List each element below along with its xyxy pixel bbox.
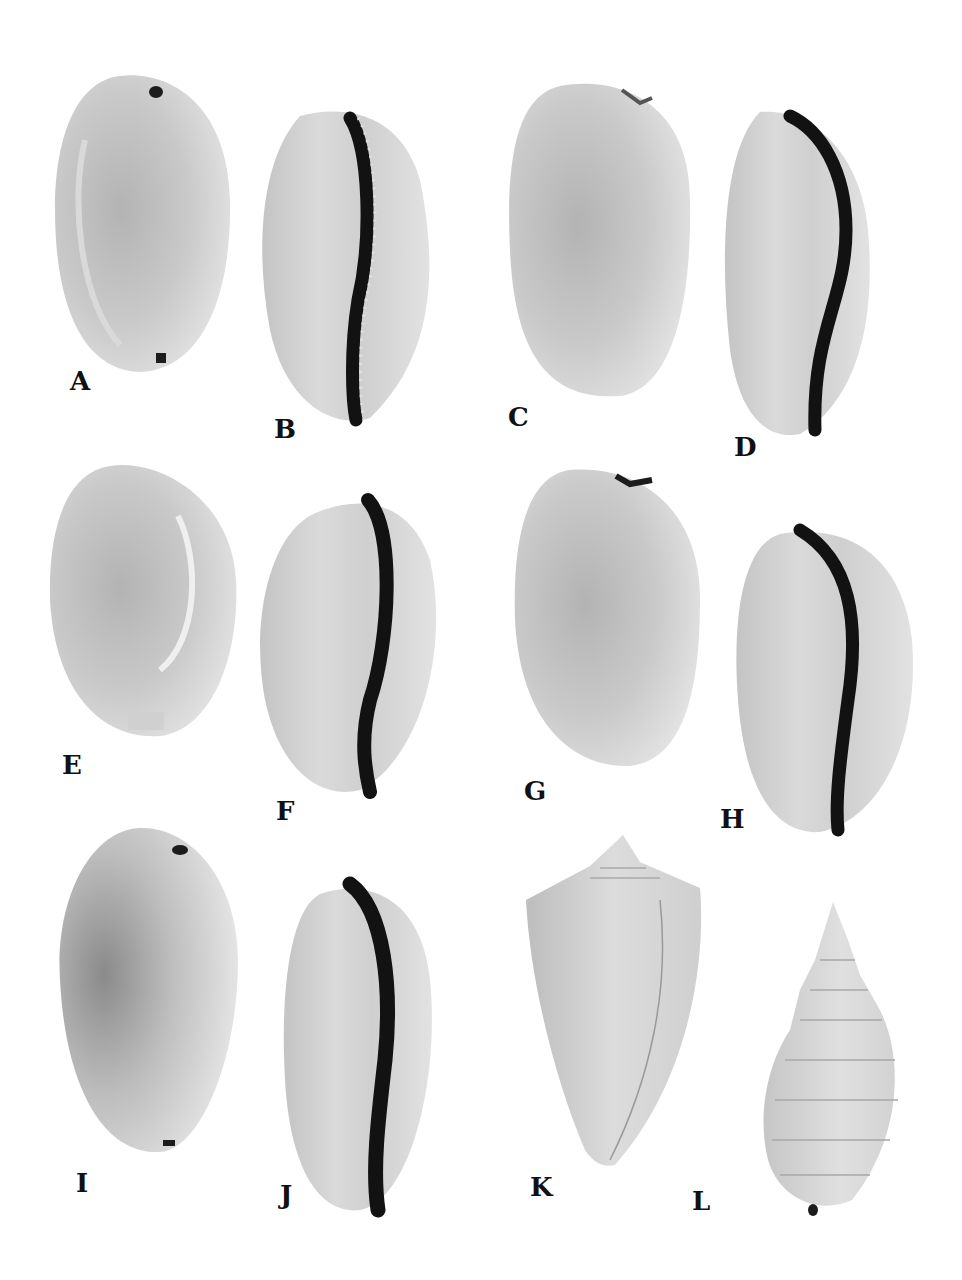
shell-a-dorsal — [55, 75, 230, 372]
shell-i-dorsal — [60, 828, 238, 1152]
label-k: K — [530, 1174, 553, 1200]
shell-e-dorsal — [50, 465, 236, 736]
label-d: D — [734, 434, 757, 460]
label-j: J — [280, 1182, 292, 1208]
shell-c-dorsal — [509, 84, 690, 397]
shell-j-ventral — [284, 884, 432, 1210]
shell-l-whelk — [764, 902, 898, 1216]
label-b: B — [274, 416, 296, 442]
label-e: E — [62, 752, 82, 778]
specimen-plate — [0, 0, 962, 1280]
label-l: L — [692, 1188, 710, 1214]
shell-g-dorsal — [515, 470, 700, 767]
label-h: H — [720, 806, 745, 832]
shell-d-ventral — [725, 112, 870, 435]
shell-b-ventral — [262, 112, 429, 421]
label-f: F — [276, 798, 294, 824]
shell-h-ventral — [736, 530, 913, 832]
label-i: I — [76, 1170, 88, 1196]
shell-f-ventral — [260, 500, 436, 792]
shell-k-cone — [526, 835, 701, 1166]
label-a: A — [70, 368, 90, 394]
label-c: C — [508, 404, 529, 430]
label-g: G — [524, 778, 546, 804]
